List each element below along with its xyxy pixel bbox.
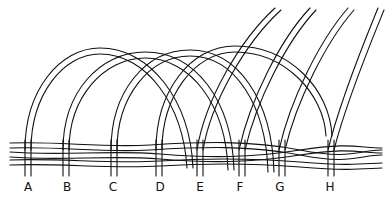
weaver-band — [10, 143, 382, 170]
weaving-diagram: A B C D E F G H — [0, 0, 388, 206]
stake-label-e: E — [192, 180, 208, 194]
upright-stakes — [197, 8, 384, 150]
stake-label-b: B — [59, 180, 75, 194]
stake-label-f: F — [232, 180, 248, 194]
stake-label-d: D — [152, 180, 168, 194]
stake-label-a: A — [20, 180, 36, 194]
diagram-drawing — [0, 0, 388, 206]
stake-label-h: H — [322, 180, 338, 194]
stake-label-c: C — [105, 180, 121, 194]
stake-label-g: G — [272, 180, 288, 194]
